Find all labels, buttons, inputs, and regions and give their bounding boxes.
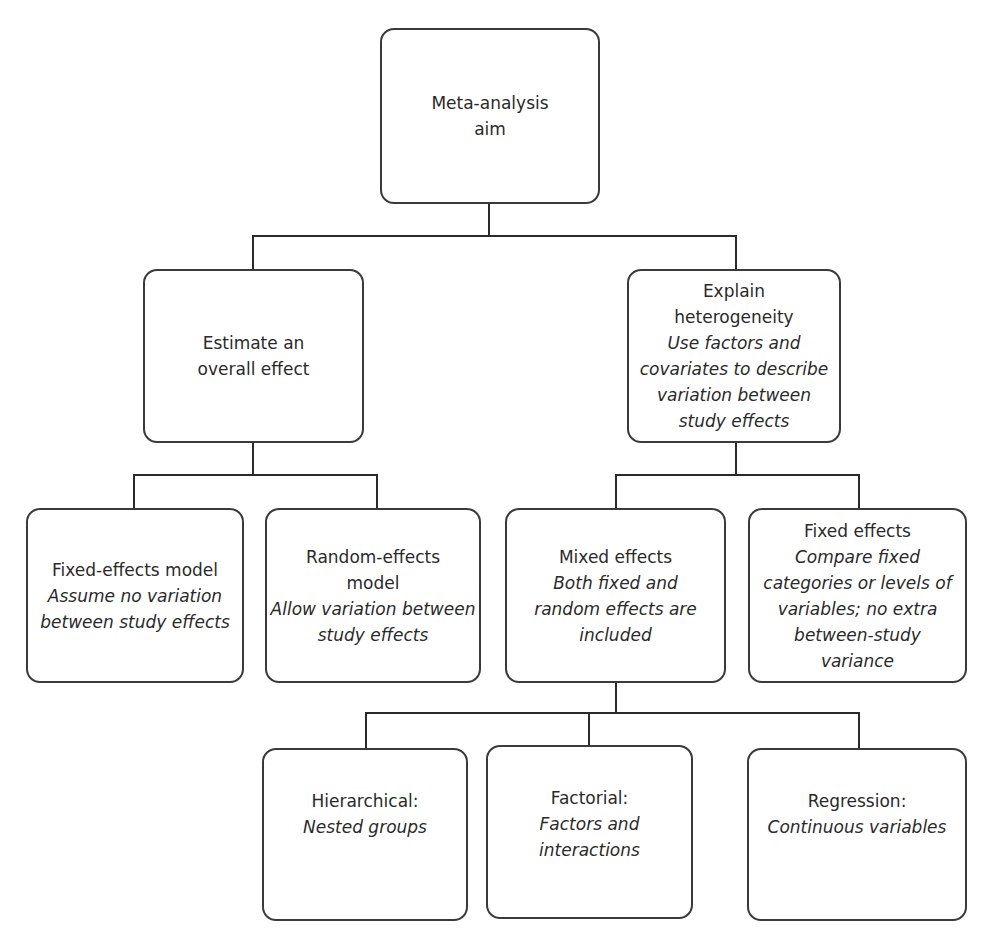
connector-to-explain — [735, 235, 737, 270]
connector-right-bar — [615, 474, 860, 476]
node-title: Fixed effects — [804, 518, 911, 544]
node-title: Mixed effects — [559, 544, 672, 570]
node-hierarchical: Hierarchical: Nested groups — [262, 748, 468, 921]
node-title: Regression: — [808, 788, 907, 814]
node-factorial: Factorial: Factors and interactions — [486, 745, 693, 919]
connector-bottom-bar — [365, 712, 860, 714]
node-regression: Regression: Continuous variables — [747, 748, 967, 921]
node-description: Compare fixed categories or levels of va… — [763, 544, 953, 674]
connector-to-fixed-effects — [858, 474, 860, 509]
node-explain-heterogeneity: Explain heterogeneity Use factors and co… — [627, 269, 841, 443]
node-title: Hierarchical: — [311, 788, 418, 814]
connector-to-random-model — [376, 474, 378, 509]
connector-mixed-down — [615, 682, 617, 713]
node-title: Meta-analysis aim — [415, 90, 565, 142]
connector-to-regression — [858, 712, 860, 749]
node-title: Estimate an overall effect — [184, 330, 324, 382]
connector-to-hierarchical — [365, 712, 367, 749]
connector-root-down — [488, 203, 490, 236]
node-title: Factorial: — [551, 785, 629, 811]
node-description: Allow variation between study effects — [271, 596, 476, 648]
node-title: Explain heterogeneity — [669, 278, 799, 330]
node-description: Both fixed and random effects are includ… — [521, 570, 711, 648]
connector-level1-bar — [252, 235, 737, 237]
node-fixed-effects-model: Fixed-effects model Assume no variation … — [26, 508, 244, 683]
connector-explain-down — [735, 442, 737, 475]
node-description: Nested groups — [303, 814, 427, 840]
node-description: Factors and interactions — [525, 811, 655, 863]
node-estimate-overall-effect: Estimate an overall effect — [143, 269, 364, 443]
node-description: Assume no variation between study effect… — [35, 583, 235, 635]
connector-to-mixed — [615, 474, 617, 509]
node-mixed-effects: Mixed effects Both fixed and random effe… — [505, 508, 726, 683]
node-meta-analysis-aim: Meta-analysis aim — [380, 28, 600, 204]
node-title: Random-effects model — [298, 544, 448, 596]
connector-to-factorial — [588, 712, 590, 749]
node-title: Fixed-effects model — [52, 557, 218, 583]
node-fixed-effects: Fixed effects Compare fixed categories o… — [748, 508, 967, 683]
connector-to-estimate — [252, 235, 254, 270]
connector-estimate-down — [252, 442, 254, 475]
node-random-effects-model: Random-effects model Allow variation bet… — [265, 508, 481, 683]
node-description: Use factors and covariates to describe v… — [634, 330, 834, 434]
connector-left-bar — [133, 474, 378, 476]
connector-to-fixed-model — [133, 474, 135, 509]
node-description: Continuous variables — [768, 814, 947, 840]
